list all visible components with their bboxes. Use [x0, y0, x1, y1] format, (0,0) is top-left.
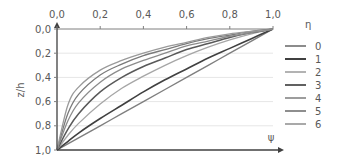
- x-tick-label: 0,0: [49, 9, 65, 20]
- y-tick-label: 1,0: [35, 145, 51, 156]
- legend-label-2: 2: [315, 67, 321, 78]
- legend-label-0: 0: [315, 41, 321, 52]
- legend-label-5: 5: [315, 106, 321, 117]
- legend-label-3: 3: [315, 80, 321, 91]
- y-tick-label: 0,0: [35, 24, 51, 35]
- x-tick-label: 1,0: [265, 9, 281, 20]
- x-tick-label: 0,2: [92, 9, 108, 20]
- legend: η 0123456: [285, 19, 321, 130]
- x-axis-label: ψ: [268, 132, 275, 143]
- y-tick-label: 0,6: [35, 96, 51, 107]
- psi-vs-depth-chart: 0,00,20,40,60,81,0 0,00,20,40,60,81,0 z/…: [0, 0, 339, 163]
- y-tick-label: 0,8: [35, 120, 51, 131]
- y-axis-ticks: 0,00,20,40,60,81,0: [35, 24, 57, 156]
- data-series: [57, 29, 273, 150]
- legend-label-4: 4: [315, 93, 321, 104]
- legend-title: η: [305, 19, 311, 30]
- x-tick-label: 0,4: [135, 9, 151, 20]
- x-tick-label: 0,6: [179, 9, 195, 20]
- x-axis-ticks: 0,00,20,40,60,81,0: [49, 9, 281, 29]
- y-axis-label: z/h: [15, 83, 26, 98]
- x-tick-label: 0,8: [222, 9, 238, 20]
- psi-arrow-icon: [278, 147, 284, 153]
- y-tick-label: 0,4: [35, 72, 51, 83]
- y-tick-label: 0,2: [35, 48, 51, 59]
- legend-label-6: 6: [315, 119, 321, 130]
- legend-label-1: 1: [315, 54, 321, 65]
